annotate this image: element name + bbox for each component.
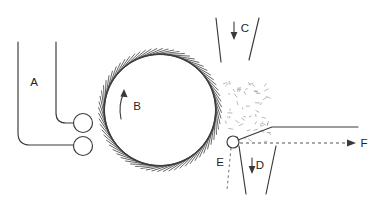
cylinder-tooth [122,49,151,68]
fiber-particle [240,87,241,89]
fiber-particle [226,83,229,86]
cylinder-tooth [100,125,122,152]
fiber-particle [256,111,259,113]
upper-feed-roller [74,114,93,133]
cylinder-tooth [105,67,116,100]
waste-outlet-right-wall [266,146,276,194]
cylinder-tooth [117,154,150,165]
fiber-particle [265,90,266,91]
cylinder-tooth [108,60,125,90]
cylinder-tooth [126,161,160,166]
cylinder-tooth [208,81,222,113]
fiber-particle [234,94,237,97]
label-d: D [256,159,264,171]
cylinder-tooth [99,119,118,148]
fiber-particle [255,122,256,124]
label-a: A [30,76,38,88]
fiber-particle [266,97,270,99]
cylinder-tooth [185,60,214,80]
waste-outlet-arrow-d-head [249,166,256,174]
label-e: E [216,156,224,168]
cylinder-tooth [119,50,146,72]
doffer-roller [227,136,239,148]
fiber-particle [253,85,255,86]
cylinder-tooth [194,65,218,90]
rotation-arrow-b-shaft [120,93,124,119]
label-c: C [241,22,249,34]
waste-outlet-left-wall [239,146,246,194]
air-inlet-arrow-c-head [231,32,238,40]
machine-schematic-diagram: A B C D E F [0,0,380,203]
cylinder-tooth [158,158,190,172]
cylinder-tooth [170,55,203,66]
cylinder-tooth [102,130,126,155]
cylinder-tooth [126,49,156,66]
fiber-particle [254,91,257,92]
fiber-particle [267,89,269,90]
cylinder-tooth [198,69,220,96]
fiber-particle [237,102,238,105]
cylinder-tooth [163,155,193,172]
cylinder-tooth [190,135,210,164]
fiber-particle [244,92,246,95]
cylinder-tooth [169,151,198,170]
fiber-particle [229,93,230,94]
cylinder-tooth [99,113,116,143]
fiber-particle-cloud [223,81,270,141]
output-conveyor-line [238,127,358,140]
feed-chute-inner-wall [56,42,74,123]
feed-chute-outer-wall [18,42,76,145]
cylinder-tooth [106,140,135,160]
cylinder-tooth [204,120,215,153]
fiber-particle [267,122,268,126]
fiber-particle [249,139,252,141]
fiber-particle [227,117,228,118]
fiber-particle [229,128,233,129]
cylinder-tooth [180,144,205,168]
fiber-particle [233,89,234,91]
cylinder-tooth [99,108,113,140]
fiber-particle [239,124,243,126]
cylinder-tooth [131,49,163,63]
cylinder-tooth [175,148,202,170]
label-b: B [133,100,141,112]
air-inlet-right-wall [249,18,259,60]
cylinder-tooth [205,76,222,106]
cylinder-tooth [195,130,212,160]
fiber-particle [236,121,239,123]
label-f: F [360,137,367,149]
fiber-particle [246,89,248,90]
lower-feed-roller [74,137,93,156]
fiber-particle [265,84,267,86]
cylinder-tooth [104,76,109,110]
fiber-particle [249,116,251,117]
fiber-particle [254,129,257,130]
fiber-particle [247,130,250,131]
cylinder-tooth [110,145,140,162]
cylinder-tooth [180,58,210,75]
diagram-canvas: A B C D E F [0,0,380,203]
cylinder-saw-teeth [99,49,222,172]
fiber-particle [229,81,230,84]
air-inlet-left-wall [216,18,221,62]
fiber-particle [260,103,261,105]
doffing-drop-dashed-line [227,148,231,190]
rotation-arrow-b-head [120,89,127,97]
fiber-particle [223,83,226,84]
cylinder-tooth [211,110,216,144]
fiber-particle [262,117,265,118]
cylinder-tooth [201,72,220,101]
fiber-particle [263,123,266,124]
cylinder-tooth [110,56,130,85]
cylinder-tooth [115,52,140,76]
output-flow-arrow-head [347,139,356,146]
fiber-particle [242,118,244,120]
fiber-particle [225,121,226,123]
fiber-particle [263,97,266,99]
